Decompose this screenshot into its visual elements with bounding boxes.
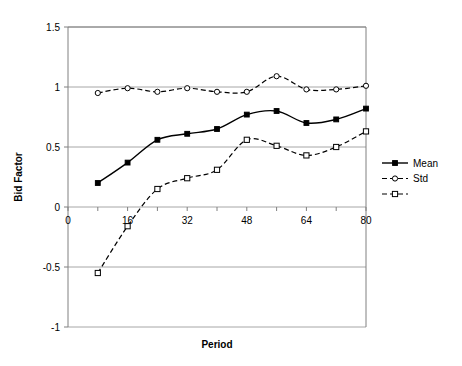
data-point-series3-7: [304, 153, 309, 158]
data-point-std-3: [185, 86, 190, 91]
data-point-mean-8: [334, 117, 339, 122]
y-tick-label-0.5: 0.5: [46, 142, 60, 153]
x-tick-label-80: 80: [360, 215, 372, 226]
data-point-series3-3: [185, 176, 190, 181]
data-point-mean-1: [125, 160, 130, 165]
x-tick-label-48: 48: [241, 215, 253, 226]
data-point-series3-5: [244, 137, 249, 142]
y-tick-label-0: 0: [54, 202, 60, 213]
data-point-series3-9: [363, 129, 368, 134]
x-tick-label-0: 0: [65, 215, 71, 226]
data-point-series3-6: [274, 143, 279, 148]
data-point-mean-7: [304, 121, 309, 126]
x-tick-label-64: 64: [301, 215, 313, 226]
chart-background: [0, 0, 462, 366]
data-point-mean-5: [244, 112, 249, 117]
y-axis-title: Bid Factor: [13, 152, 24, 202]
data-point-std-1: [125, 86, 130, 91]
data-point-std-6: [274, 74, 279, 79]
data-point-series3-0: [95, 270, 100, 275]
x-axis-title: Period: [201, 339, 232, 350]
y-tick-label--0.5: -0.5: [43, 262, 61, 273]
y-tick-label--1: -1: [51, 322, 60, 333]
data-point-std-7: [304, 87, 309, 92]
chart-canvas: -1-0.500.511.5 01632486480 MeanStd Bid F…: [0, 0, 462, 366]
y-tick-label-1.5: 1.5: [46, 22, 60, 33]
data-point-std-8: [334, 87, 339, 92]
data-point-mean-legend: [393, 161, 398, 166]
data-point-std-0: [95, 90, 100, 95]
legend-label-mean: Mean: [413, 158, 438, 169]
data-point-std-2: [155, 89, 160, 94]
data-point-series3-8: [334, 144, 339, 149]
data-point-series3-legend: [392, 191, 397, 196]
data-point-series3-2: [155, 186, 160, 191]
data-point-series3-1: [125, 224, 130, 229]
data-point-std-5: [244, 89, 249, 94]
data-point-series3-4: [214, 167, 219, 172]
data-point-std-4: [214, 89, 219, 94]
x-tick-label-32: 32: [182, 215, 194, 226]
bid-factor-chart: -1-0.500.511.5 01632486480 MeanStd Bid F…: [0, 0, 462, 366]
data-point-mean-9: [364, 106, 369, 111]
data-point-mean-4: [215, 127, 220, 132]
legend-label-std: Std: [413, 173, 428, 184]
data-point-mean-3: [185, 131, 190, 136]
data-point-mean-2: [155, 137, 160, 142]
data-point-mean-0: [95, 181, 100, 186]
data-point-std-legend: [392, 176, 397, 181]
data-point-std-9: [363, 83, 368, 88]
data-point-mean-6: [274, 109, 279, 114]
y-tick-label-1: 1: [54, 82, 60, 93]
